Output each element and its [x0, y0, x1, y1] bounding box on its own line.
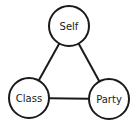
node-class-label: Class: [16, 93, 42, 104]
node-self: Self: [49, 6, 89, 46]
triangle-diagram: Self Class Party: [0, 0, 137, 128]
node-party-label: Party: [96, 94, 122, 105]
node-class: Class: [9, 78, 49, 118]
node-party: Party: [89, 79, 129, 119]
node-self-label: Self: [60, 21, 79, 32]
